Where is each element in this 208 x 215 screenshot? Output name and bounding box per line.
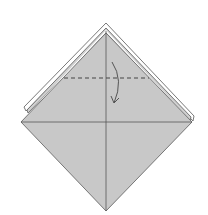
origami-diagram [0, 0, 208, 215]
